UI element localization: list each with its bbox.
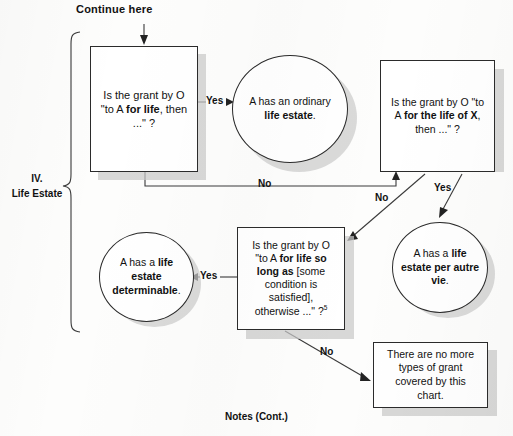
section-label: IV. Life Estate — [8, 172, 66, 201]
r1-line1: A has an ordinary — [249, 95, 331, 107]
edge-label-q3-no: No — [320, 346, 333, 357]
q3-line6: otherwise ..." ? — [255, 305, 324, 317]
flowchart-canvas: Continue here IV. Life Estate Is the gra… — [0, 0, 513, 436]
q2-line2-post: , — [477, 109, 480, 121]
question-for-life-box[interactable]: Is the grant by O "to A for life, then .… — [90, 46, 198, 172]
edge-label-q2-no: No — [375, 192, 388, 203]
q3-line3-post: [some — [294, 265, 326, 277]
q2-line2-bold: for the life of X — [404, 109, 478, 121]
edge-q2-no-path — [353, 174, 425, 236]
q3-line2-bold: for life so — [279, 252, 326, 264]
end-line2: types of grant — [399, 361, 463, 373]
r3-line3-bold: determinable — [112, 284, 177, 296]
q2-line2-pre: A — [395, 109, 404, 121]
edge-label-q3-yes: Yes — [200, 270, 217, 281]
notes-cont-label: Notes (Cont.) — [225, 411, 288, 422]
end-line4: chart. — [417, 389, 443, 401]
q1-line1: Is the grant by O — [103, 89, 184, 101]
question-life-of-x-box[interactable]: Is the grant by O "to A for the life of … — [380, 60, 495, 172]
q3-line5: satisfied], — [269, 291, 313, 303]
r2-line2-bold: estate per autre — [401, 261, 479, 273]
q1-line2-post: , then — [160, 103, 188, 115]
r3-line1-bold: life — [158, 256, 173, 268]
r2-line3-post: . — [446, 274, 449, 286]
r3-line2-bold: estate — [131, 270, 161, 282]
end-line3: covered by this — [395, 375, 466, 387]
q1-line3: ..." ? — [133, 117, 155, 129]
r1-line2-bold: life estate — [264, 109, 312, 121]
q2-line3: then ..." ? — [415, 123, 460, 135]
q1-line2-pre: "to A — [101, 103, 126, 115]
q3-line3-bold: long as — [257, 265, 294, 277]
r3-line3-post: . — [178, 284, 181, 296]
q3-line2-pre: "to A — [255, 252, 279, 264]
edge-label-q2-yes: Yes — [434, 182, 451, 193]
section-name: Life Estate — [8, 187, 66, 202]
q3-footnote-marker: 5 — [324, 304, 328, 311]
question-so-long-as-box[interactable]: Is the grant by O "to A for life so long… — [237, 227, 345, 330]
r2-line1-pre: A has a — [413, 247, 451, 259]
end-line1: There are no more — [387, 348, 474, 360]
edge-q2-yes-arrowhead — [439, 207, 448, 218]
result-ordinary-life-estate-circle[interactable]: A has an ordinary life estate. — [232, 55, 348, 163]
edge-label-q1-yes: Yes — [206, 95, 223, 106]
q2-line1: Is the grant by O "to — [391, 96, 484, 108]
r3-line1-pre: A has a — [120, 256, 158, 268]
r2-line3-bold: vie — [431, 274, 446, 286]
q1-line2-bold: for life — [126, 103, 160, 115]
r1-line2-post: . — [313, 109, 316, 121]
section-number: IV. — [8, 172, 66, 187]
q3-line4: condition is — [265, 278, 318, 290]
terminal-no-more-grants-box[interactable]: There are no more types of grant covered… — [373, 342, 488, 408]
edge-q1-no-arrowhead — [392, 171, 400, 180]
edge-label-q1-no: No — [258, 178, 271, 189]
continue-here-label: Continue here — [76, 3, 153, 15]
result-per-autre-vie-circle[interactable]: A has a life estate per autre vie. — [392, 222, 488, 313]
edge-continue-arrowhead — [140, 35, 148, 45]
edge-q3-no-arrowhead — [360, 372, 371, 381]
q3-line1: Is the grant by O — [252, 239, 330, 251]
result-life-estate-determinable-circle[interactable]: A has a life estate determinable. — [99, 232, 194, 322]
r2-line1-bold: life — [451, 247, 466, 259]
